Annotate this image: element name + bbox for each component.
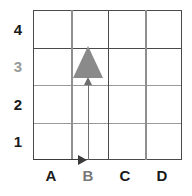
row-label-2: 2 (8, 97, 28, 112)
horizontal-arrow-shaft (33, 159, 83, 160)
gridline-vertical-right (181, 10, 182, 160)
gridline-vertical-a-b (71, 10, 73, 160)
coordinate-grid-diagram: 4 3 2 1 A B C D (0, 0, 192, 196)
column-label-c: C (113, 168, 137, 183)
row-label-3: 3 (8, 59, 28, 74)
column-label-d: D (150, 168, 174, 183)
gridline-vertical-left (33, 10, 34, 160)
grid-plot-area (33, 10, 182, 160)
horizontal-arrow-head-icon (78, 155, 87, 165)
gridline-vertical-c-d (145, 10, 147, 160)
column-label-a: A (39, 168, 63, 183)
vertical-arrow-shaft (88, 84, 89, 160)
gridline-vertical-b-c (108, 10, 109, 160)
row-label-1: 1 (8, 134, 28, 149)
vertical-arrow-head-icon (84, 77, 92, 85)
column-label-b: B (76, 168, 100, 183)
row-label-4: 4 (8, 22, 28, 37)
marker-triangle-icon (73, 46, 103, 78)
